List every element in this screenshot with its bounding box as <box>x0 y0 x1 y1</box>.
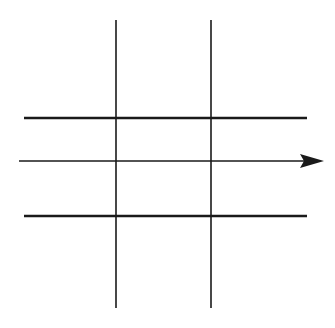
grid-with-arrow-diagram <box>0 0 335 328</box>
vertical-lines <box>116 20 211 308</box>
diagram-canvas <box>0 0 335 328</box>
horizontal-lines <box>24 118 307 216</box>
right-arrow-icon <box>19 154 324 168</box>
